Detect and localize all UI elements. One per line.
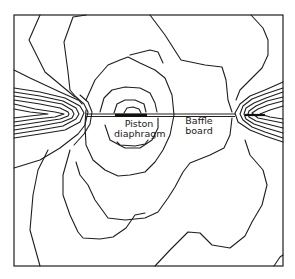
contour-line [124,107,141,113]
contour-line [150,15,232,112]
piston-label-line2: diaphragm [114,129,164,139]
contour-line [114,100,146,113]
baffle-label-line2: board [177,126,221,136]
contour-line [30,150,48,266]
contour-line [63,150,145,239]
contour-line [260,106,283,119]
contour-line [117,140,148,146]
plot-frame [14,15,283,266]
contour-line [155,140,267,266]
contour-line [29,15,75,97]
baffle-board-label: Baffle board [177,116,221,136]
contour-diagram: Piston diaphragm Baffle board [0,0,295,279]
contour-line [252,101,283,123]
contour-line [274,255,283,266]
piston-diaphragm-label: Piston diaphragm [114,119,164,139]
contour-line [235,82,283,142]
contour-plot-svg [0,0,295,279]
contour-line [236,15,268,100]
